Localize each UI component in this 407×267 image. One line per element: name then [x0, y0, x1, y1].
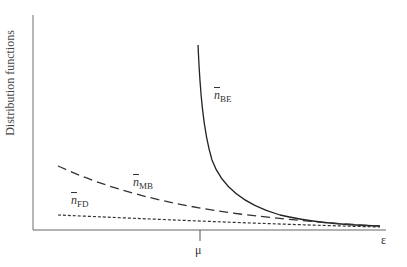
fd-curve-label: nFD	[71, 193, 89, 209]
distribution-functions-chart	[0, 0, 407, 267]
y-axis-label: Distribution functions	[2, 18, 18, 148]
y-axis-label-text: Distribution functions	[3, 30, 18, 136]
x-axis-label: ε	[381, 233, 386, 248]
be-subscript: BE	[220, 94, 232, 104]
fd-curve	[58, 215, 380, 227]
mb-curve-label: nMB	[133, 175, 153, 191]
be-curve-label: nBE	[214, 88, 232, 104]
be-curve	[198, 45, 380, 226]
mu-tick-label: μ	[195, 243, 201, 258]
mb-subscript: MB	[139, 181, 153, 191]
fd-subscript: FD	[77, 199, 89, 209]
